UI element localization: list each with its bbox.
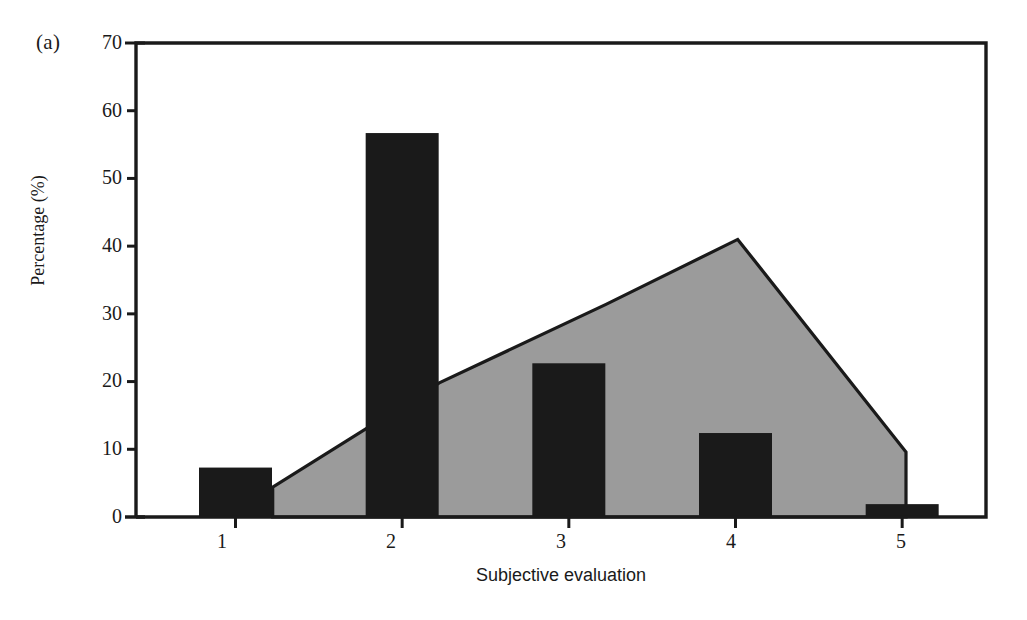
x-tick-label-1: 1	[192, 530, 252, 553]
y-tick-label-20: 20	[62, 369, 122, 392]
panel-label: (a)	[36, 30, 60, 55]
y-tick-label-70: 70	[62, 31, 122, 54]
bar-2	[366, 133, 439, 517]
x-tick-label-3: 3	[531, 530, 591, 553]
plot-area	[0, 0, 1027, 620]
figure-panel-a: (a) Percentage (%) Subjective evaluation…	[0, 0, 1027, 620]
bar-4	[699, 433, 772, 517]
y-tick-label-50: 50	[62, 166, 122, 189]
y-tick-label-10: 10	[62, 437, 122, 460]
bar-5	[866, 504, 939, 517]
y-tick-label-30: 30	[62, 302, 122, 325]
x-axis-title: Subjective evaluation	[136, 565, 986, 586]
y-tick-label-60: 60	[62, 99, 122, 122]
x-tick-label-4: 4	[701, 530, 761, 553]
bar-1	[199, 468, 272, 517]
bar-3	[532, 363, 605, 517]
x-tick-label-5: 5	[871, 530, 931, 553]
y-tick-label-40: 40	[62, 234, 122, 257]
x-tick-label-2: 2	[361, 530, 421, 553]
y-axis-title: Percentage (%)	[28, 131, 49, 331]
y-tick-label-0: 0	[62, 505, 122, 528]
